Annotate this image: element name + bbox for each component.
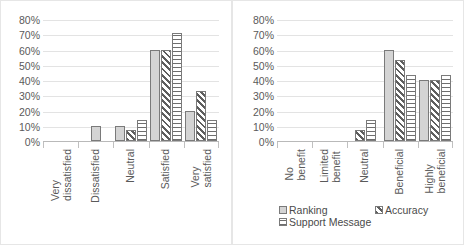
- bar-group: [78, 20, 113, 141]
- x-axis-ticks-left: [43, 142, 219, 148]
- bar-group: [113, 20, 148, 141]
- x-axis-ticks-right: [277, 142, 453, 148]
- x-axis-category-label: Neutral: [359, 149, 371, 183]
- x-axis-category-label: Highlybeneficial: [424, 149, 447, 193]
- x-axis-tick: [78, 142, 113, 148]
- x-axis-category-label: Nobenefit: [283, 149, 306, 181]
- bar: [355, 130, 365, 141]
- y-axis-tick-label: 50%: [253, 60, 274, 71]
- legend-swatch-icon: [279, 206, 287, 214]
- legend-swatch-icon: [375, 206, 383, 214]
- bar: [91, 126, 101, 141]
- x-axis-label-cell: Neutral: [113, 149, 148, 221]
- x-axis-label-line: Neutral: [359, 149, 371, 183]
- bar-group: [277, 20, 312, 141]
- x-axis-category-label: Limitedbenefit: [318, 149, 341, 183]
- y-axis-tick-label: 40%: [253, 76, 274, 87]
- x-axis-category-label: Satisfied: [160, 149, 172, 189]
- chart-legend: RankingAccuracySupport Message: [279, 204, 459, 228]
- bar-group: [312, 20, 347, 141]
- x-axis-label-line: benefit: [330, 149, 342, 183]
- bar: [115, 126, 125, 141]
- bar-group: [184, 20, 219, 141]
- legend-item[interactable]: Support Message: [279, 216, 371, 228]
- y-axis-tick-label: 0%: [259, 137, 274, 148]
- x-axis-label-cell: Satisfied: [149, 149, 184, 221]
- bar: [196, 91, 206, 141]
- y-axis-tick-label: 40%: [19, 76, 40, 87]
- bar: [384, 50, 394, 142]
- x-axis-label-line: Beneficial: [394, 149, 406, 195]
- x-axis-label-line: benefit: [295, 149, 307, 181]
- bar: [137, 120, 147, 141]
- x-axis-category-label: Verysatisfied: [190, 149, 213, 188]
- y-axis-tick-label: 20%: [19, 106, 40, 117]
- x-axis-tick: [277, 142, 312, 148]
- bar-group: [149, 20, 184, 141]
- x-axis-tick: [383, 142, 418, 148]
- legend-item-label: Support Message: [289, 216, 371, 228]
- plot-area-left: [43, 20, 219, 142]
- y-axis-tick-label: 80%: [253, 15, 274, 26]
- y-axis-tick-label: 30%: [253, 91, 274, 102]
- x-axis-tick: [113, 142, 148, 148]
- x-axis-category-label: Dissatisfied: [90, 149, 102, 203]
- bar: [441, 75, 451, 141]
- x-axis-label-cell: Verysatisfied: [184, 149, 219, 221]
- x-axis-label-line: Satisfied: [160, 149, 172, 189]
- plot-area-right: [277, 20, 453, 142]
- bar-groups-left: [43, 20, 219, 141]
- x-axis-label-line: beneficial: [435, 149, 447, 193]
- y-axis-tick-label: 60%: [19, 45, 40, 56]
- y-axis-tick-label: 30%: [19, 91, 40, 102]
- bar-group: [383, 20, 418, 141]
- dual-bar-chart-figure: 0%10%20%30%40%50%60%70%80% Verydissatisf…: [0, 0, 464, 245]
- y-axis-tick-label: 60%: [253, 45, 274, 56]
- x-axis-category-label: Neutral: [125, 149, 137, 183]
- y-axis-labels-left: 0%10%20%30%40%50%60%70%80%: [4, 20, 40, 142]
- y-axis-tick-label: 10%: [19, 121, 40, 132]
- x-axis-tick: [149, 142, 184, 148]
- x-axis-label-line: dissatisfied: [61, 149, 73, 201]
- legend-swatch-icon: [279, 218, 287, 226]
- legend-row: RankingAccuracy: [279, 204, 459, 216]
- bar-group: [347, 20, 382, 141]
- bar: [207, 120, 217, 141]
- bar-group: [43, 20, 78, 141]
- chart-panel-left: 0%10%20%30%40%50%60%70%80% Verydissatisf…: [0, 0, 232, 245]
- x-axis-label-line: Dissatisfied: [90, 149, 102, 203]
- bar-groups-right: [277, 20, 453, 141]
- bar: [172, 33, 182, 141]
- x-axis-label-line: satisfied: [201, 149, 213, 188]
- x-axis-category-label: Verydissatisfied: [49, 149, 72, 201]
- y-axis-tick-label: 0%: [25, 137, 40, 148]
- y-axis-tick-label: 70%: [19, 30, 40, 41]
- chart-panel-right: 0%10%20%30%40%50%60%70%80% NobenefitLimi…: [232, 0, 464, 245]
- y-axis-tick-label: 80%: [19, 15, 40, 26]
- bar: [395, 60, 405, 141]
- x-axis-tick: [43, 142, 78, 148]
- bar: [161, 50, 171, 142]
- y-axis-tick-label: 70%: [253, 30, 274, 41]
- legend-item[interactable]: Accuracy: [375, 204, 428, 216]
- x-axis-label-line: Very: [49, 149, 61, 201]
- y-axis-tick-label: 10%: [253, 121, 274, 132]
- bar: [366, 120, 376, 141]
- bar: [126, 130, 136, 141]
- x-axis-label-line: No: [283, 149, 295, 181]
- legend-item[interactable]: Ranking: [279, 204, 375, 216]
- bar: [406, 75, 416, 141]
- y-axis-tick-label: 50%: [19, 60, 40, 71]
- y-axis-tick-label: 20%: [253, 106, 274, 117]
- bar: [419, 80, 429, 141]
- x-axis-label-cell: Verydissatisfied: [43, 149, 78, 221]
- legend-item-label: Ranking: [289, 204, 328, 216]
- x-axis-tick: [184, 142, 219, 148]
- legend-item-label: Accuracy: [385, 204, 428, 216]
- bar: [150, 50, 160, 142]
- legend-row: Support Message: [279, 216, 459, 228]
- x-axis-label-line: Neutral: [125, 149, 137, 183]
- y-axis-labels-right: 0%10%20%30%40%50%60%70%80%: [238, 20, 274, 142]
- bar: [185, 111, 195, 142]
- x-axis-tick: [312, 142, 347, 148]
